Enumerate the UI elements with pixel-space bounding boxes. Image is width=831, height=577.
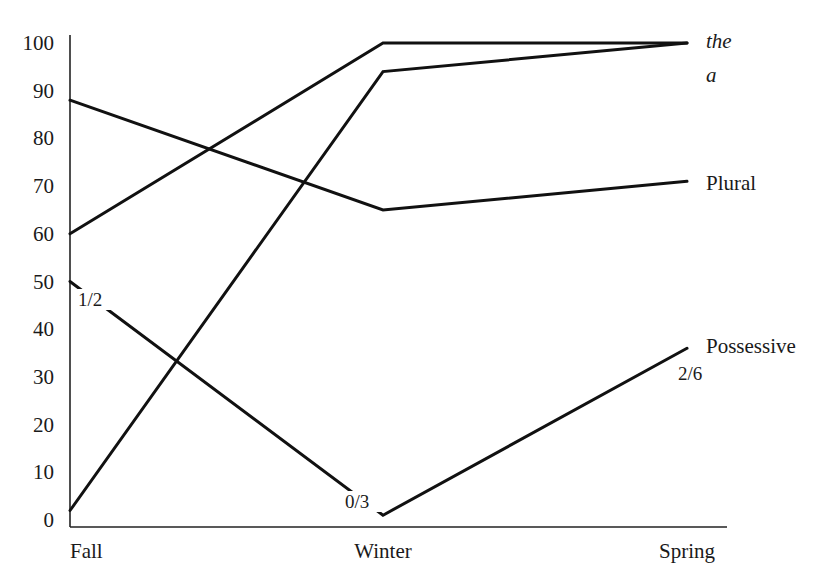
series-line-plural: [70, 100, 687, 210]
y-tick-label: 90: [33, 79, 54, 103]
fraction-annotation: 1/2: [78, 289, 102, 310]
series-line-a: [70, 43, 687, 511]
series-label-a: a: [706, 63, 717, 87]
series-line-possessive: [70, 282, 687, 516]
y-tick-label: 0: [44, 508, 55, 532]
y-tick-label: 20: [33, 413, 54, 437]
fraction-annotations: 1/20/32/6: [76, 289, 716, 512]
y-tick-label: 70: [33, 174, 54, 198]
y-tick-label: 40: [33, 317, 54, 341]
series-line-the: [70, 43, 687, 234]
y-tick-labels: 0102030405060708090100: [23, 31, 55, 532]
series-label-possessive: Possessive: [706, 334, 796, 358]
y-tick-label: 10: [33, 460, 54, 484]
y-tick-label: 50: [33, 270, 54, 294]
y-tick-label: 80: [33, 126, 54, 150]
line-chart: 0102030405060708090100 FallWinterSpring …: [0, 0, 831, 577]
x-category-label-spring: Spring: [659, 539, 716, 563]
y-tick-label: 60: [33, 222, 54, 246]
y-tick-label: 30: [33, 365, 54, 389]
x-category-labels: FallWinterSpring: [70, 539, 715, 563]
y-tick-label: 100: [23, 31, 55, 55]
fraction-annotation: 0/3: [345, 491, 369, 512]
series-labels: theaPluralPossessive: [706, 29, 796, 358]
series-lines: [70, 43, 687, 515]
series-label-the: the: [706, 29, 732, 53]
x-category-label-fall: Fall: [70, 539, 103, 563]
series-label-plural: Plural: [706, 171, 756, 195]
fraction-annotation: 2/6: [678, 363, 702, 384]
x-category-label-winter: Winter: [354, 539, 411, 563]
axes: [70, 35, 727, 527]
